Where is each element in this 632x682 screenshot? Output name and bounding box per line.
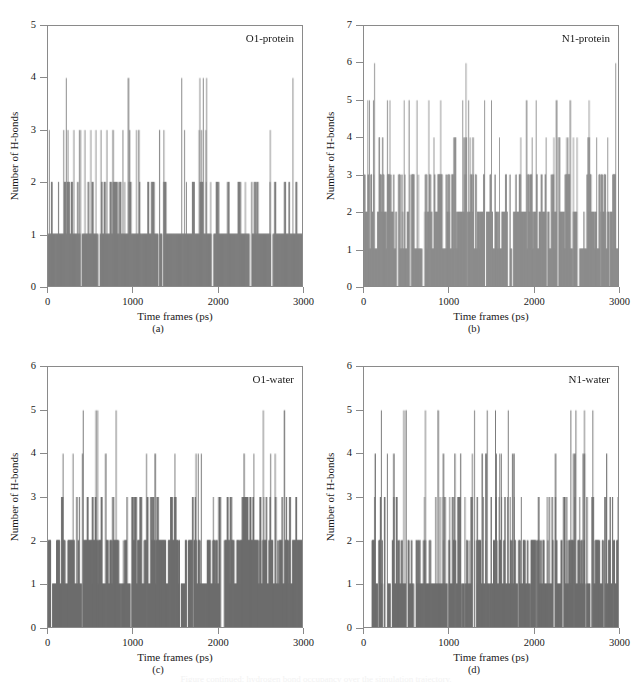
panel-d-x-tick-2000: 2000: [534, 628, 535, 634]
panel-d-bars: [364, 367, 618, 627]
panel-d-x-tick-label-0: 0: [361, 636, 366, 650]
panel-a-x-tick-label-3000: 3000: [293, 295, 314, 309]
panel-c-plot-area: O1-water: [47, 366, 303, 628]
panel-a-y-tick-0: 0: [40, 287, 47, 288]
panel-d-series-label: N1-water: [568, 372, 610, 386]
panel-d-x-tick-label-3000: 3000: [609, 636, 630, 650]
panel-b-x-tick-3000: 3000: [619, 287, 620, 293]
panel-a: Number of H-bonds O1-protein 012345 0100…: [0, 0, 316, 341]
panel-d-x-tick-1000: 1000: [448, 628, 449, 634]
panel-b-y-tick-label-3: 3: [347, 167, 356, 182]
panel-b-y-tick-label-2: 2: [347, 204, 356, 219]
clipped-bottom-caption: Figure continued: hydrogen bond occupanc…: [0, 674, 632, 682]
panel-d-y-tick-1: 1: [356, 584, 363, 585]
panel-a-y-tick-label-2: 2: [31, 174, 40, 189]
panel-a-y-tick-label-4: 4: [31, 69, 40, 84]
panel-d-x-tick-label-1000: 1000: [438, 636, 459, 650]
panel-b-y-axis-title: Number of H-bonds: [322, 25, 338, 287]
panel-c-y-tick-4: 4: [40, 453, 47, 454]
panel-b-y-tick-0: 0: [356, 287, 363, 288]
panel-c-x-tick-2000: 2000: [218, 628, 219, 634]
panel-b-plot-area: N1-protein: [363, 25, 619, 287]
panel-b-y-tick-label-4: 4: [347, 129, 356, 144]
panel-c-bars: [48, 367, 302, 627]
hbond-figure: Number of H-bonds O1-protein 012345 0100…: [0, 0, 632, 682]
panel-d-x-tick-0: 0: [363, 628, 364, 634]
panel-a-y-tick-3: 3: [40, 130, 47, 131]
panel-b-x-tick-label-2000: 2000: [524, 295, 545, 309]
panel-c-y-tick-label-1: 1: [31, 576, 40, 591]
panel-d: Number of H-bonds N1-water 0123456 01000…: [316, 341, 632, 682]
panel-a-y-tick-1: 1: [40, 235, 47, 236]
panel-d-y-axis-title: Number of H-bonds: [322, 366, 338, 628]
panel-a-y-tick-2: 2: [40, 182, 47, 183]
panel-d-x-axis-title: Time frames (ps): [363, 650, 619, 664]
panel-d-plot-area: N1-water: [363, 366, 619, 628]
panel-a-caption: (a): [0, 322, 316, 336]
panel-a-y-tick-5: 5: [40, 25, 47, 26]
panel-d-y-tick-label-2: 2: [347, 533, 356, 548]
panel-a-x-tick-label-1000: 1000: [122, 295, 143, 309]
panel-a-x-axis-title: Time frames (ps): [47, 309, 303, 323]
panel-c-y-tick-label-2: 2: [31, 533, 40, 548]
panel-c-x-tick-label-0: 0: [45, 636, 50, 650]
panel-a-y-tick-label-3: 3: [31, 122, 40, 137]
panel-d-y-tick-3: 3: [356, 497, 363, 498]
panel-b-y-tick-6: 6: [356, 62, 363, 63]
panel-d-x-tick-3000: 3000: [619, 628, 620, 634]
panel-d-y-tick-label-3: 3: [347, 489, 356, 504]
panel-c-x-tick-1000: 1000: [132, 628, 133, 634]
panel-a-plot-area: O1-protein: [47, 25, 303, 287]
panel-c-y-tick-6: 6: [40, 366, 47, 367]
panel-d-y-tick-label-1: 1: [347, 576, 356, 591]
panel-a-x-tick-0: 0: [47, 287, 48, 293]
panel-b-y-tick-1: 1: [356, 250, 363, 251]
panel-a-bars: [48, 26, 302, 286]
panel-d-y-tick-label-6: 6: [347, 358, 356, 373]
panel-c-series-label: O1-water: [252, 372, 294, 386]
panel-c-x-tick-3000: 3000: [303, 628, 304, 634]
panel-a-x-tick-2000: 2000: [218, 287, 219, 293]
panel-d-y-tick-5: 5: [356, 410, 363, 411]
panel-c-y-tick-3: 3: [40, 497, 47, 498]
panel-d-y-tick-6: 6: [356, 366, 363, 367]
panel-d-x-tick-label-2000: 2000: [524, 636, 545, 650]
panel-b-x-tick-0: 0: [363, 287, 364, 293]
panel-d-y-tick-label-0: 0: [347, 620, 356, 635]
panel-b-y-tick-label-5: 5: [347, 92, 356, 107]
panel-b: Number of H-bonds N1-protein 01234567 01…: [316, 0, 632, 341]
panel-c-y-tick-5: 5: [40, 410, 47, 411]
panel-c-x-tick-label-1000: 1000: [122, 636, 143, 650]
panel-b-y-tick-3: 3: [356, 175, 363, 176]
panel-d-y-tick-2: 2: [356, 541, 363, 542]
panel-b-x-tick-label-0: 0: [361, 295, 366, 309]
panel-b-y-tick-5: 5: [356, 100, 363, 101]
panel-a-y-tick-label-1: 1: [31, 227, 40, 242]
panel-a-x-tick-1000: 1000: [132, 287, 133, 293]
panel-d-y-tick-label-4: 4: [347, 445, 356, 460]
panel-b-bars: [364, 26, 618, 286]
panel-a-y-tick-4: 4: [40, 77, 47, 78]
panel-c-x-tick-0: 0: [47, 628, 48, 634]
panel-a-series-label: O1-protein: [246, 31, 294, 45]
panel-b-x-axis-title: Time frames (ps): [363, 309, 619, 323]
panel-a-x-tick-3000: 3000: [303, 287, 304, 293]
panel-b-y-tick-label-1: 1: [347, 242, 356, 257]
panel-c-x-tick-label-3000: 3000: [293, 636, 314, 650]
panel-b-series-label: N1-protein: [562, 31, 610, 45]
panel-b-y-tick-4: 4: [356, 137, 363, 138]
panel-a-x-tick-label-2000: 2000: [208, 295, 229, 309]
panel-d-y-tick-4: 4: [356, 453, 363, 454]
panel-b-x-tick-1000: 1000: [448, 287, 449, 293]
panel-c-y-tick-label-6: 6: [31, 358, 40, 373]
panel-b-y-tick-label-6: 6: [347, 54, 356, 69]
panel-b-caption: (b): [316, 322, 632, 336]
panel-c-y-tick-label-5: 5: [31, 402, 40, 417]
panel-b-y-tick-label-7: 7: [347, 17, 356, 32]
panel-b-x-tick-2000: 2000: [534, 287, 535, 293]
panel-b-y-tick-label-0: 0: [347, 279, 356, 294]
panel-c-y-tick-label-4: 4: [31, 445, 40, 460]
panel-d-y-tick-label-5: 5: [347, 402, 356, 417]
panel-b-x-tick-label-3000: 3000: [609, 295, 630, 309]
panel-c: Number of H-bonds O1-water 0123456 01000…: [0, 341, 316, 682]
